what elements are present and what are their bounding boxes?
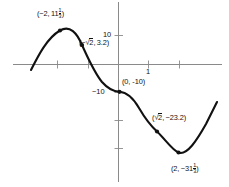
radical-bar: 2 (89, 38, 93, 46)
point-local-min (176, 150, 180, 154)
annotation-local-min: (2, −3113) (171, 163, 199, 174)
point-pos-root2 (155, 129, 159, 133)
annotation-local-max-close: ) (62, 9, 64, 18)
annotation-local-min-close: ) (196, 164, 198, 173)
annotation-local-max-text: (−2, 11 (37, 9, 58, 18)
annotation-origin-point: (0, -10) (122, 78, 145, 85)
coordinate-plot (0, 0, 229, 187)
annotation-neg-root2: (−√2, 3.2) (79, 38, 109, 46)
radical-sign-b: √2 (154, 113, 162, 121)
radical-sign-a: √2 (86, 38, 94, 46)
radical-bar: 2 (158, 113, 162, 121)
graph-figure: (−2, 1113) (−√2, 3.2) (0, -10) (√2, −23.… (0, 0, 229, 187)
annotation-local-max: (−2, 1113) (37, 8, 64, 19)
y-tick-label-10: 10 (103, 31, 111, 38)
annotation-local-min-text: (2, −31 (171, 164, 193, 173)
x-tick-label-1: 1 (146, 68, 150, 75)
point-local-max (58, 28, 62, 32)
point-origin (117, 90, 121, 94)
cubic-curve (31, 29, 217, 153)
y-tick-label-neg10: −10 (92, 88, 105, 95)
annotation-pos-root2: (√2, −23.2) (152, 113, 186, 121)
